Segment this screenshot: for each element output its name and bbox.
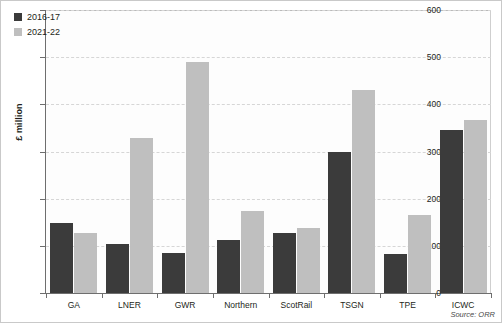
x-axis-label: GA bbox=[46, 300, 102, 310]
legend-item[interactable]: 2016-17 bbox=[14, 12, 60, 22]
x-axis-labels: GALNERGWRNorthernScotRailTSGNTPEICWC bbox=[46, 300, 491, 310]
chart-figure: £ million 0100200300400500600 GALNERGWRN… bbox=[0, 0, 502, 323]
bar bbox=[217, 240, 240, 293]
y-tick bbox=[40, 57, 45, 58]
bar-group bbox=[213, 10, 269, 293]
bar bbox=[186, 62, 209, 293]
x-tick bbox=[324, 293, 325, 298]
legend-swatch-icon bbox=[14, 13, 22, 21]
x-axis-label: Northern bbox=[213, 300, 269, 310]
bar bbox=[297, 228, 320, 293]
y-tick bbox=[40, 104, 45, 105]
bar bbox=[352, 90, 375, 293]
bar bbox=[106, 244, 129, 293]
legend-label: 2016-17 bbox=[27, 12, 60, 22]
bar bbox=[408, 215, 431, 293]
bar bbox=[241, 211, 264, 293]
bar bbox=[162, 253, 185, 293]
bar-group bbox=[435, 10, 491, 293]
y-tick bbox=[40, 293, 45, 294]
bar-group bbox=[102, 10, 158, 293]
y-tick bbox=[40, 199, 45, 200]
bar bbox=[328, 152, 351, 293]
source-note: Source: ORR bbox=[450, 310, 495, 319]
x-tick bbox=[491, 293, 492, 298]
x-tick bbox=[102, 293, 103, 298]
x-tick bbox=[269, 293, 270, 298]
x-axis-ticks bbox=[46, 293, 491, 298]
bar bbox=[130, 138, 153, 293]
bar-group bbox=[324, 10, 380, 293]
y-tick bbox=[40, 152, 45, 153]
x-tick bbox=[435, 293, 436, 298]
x-tick bbox=[46, 293, 47, 298]
legend-item[interactable]: 2021-22 bbox=[14, 27, 60, 37]
bar-group bbox=[157, 10, 213, 293]
legend: 2016-172021-22 bbox=[14, 12, 60, 42]
x-axis-label: TPE bbox=[380, 300, 436, 310]
bar-group bbox=[269, 10, 325, 293]
y-axis-label: £ million bbox=[14, 82, 24, 162]
bar bbox=[50, 223, 73, 293]
x-tick bbox=[380, 293, 381, 298]
x-axis-label: ScotRail bbox=[269, 300, 325, 310]
bar-groups bbox=[46, 10, 491, 293]
bar bbox=[440, 130, 463, 293]
x-axis-label: LNER bbox=[102, 300, 158, 310]
bar bbox=[273, 233, 296, 293]
x-axis-label: ICWC bbox=[435, 300, 491, 310]
plot-area: 0100200300400500600 GALNERGWRNorthernSco… bbox=[45, 10, 491, 293]
x-tick bbox=[213, 293, 214, 298]
legend-swatch-icon bbox=[14, 28, 22, 36]
legend-label: 2021-22 bbox=[27, 27, 60, 37]
bar-group bbox=[46, 10, 102, 293]
bar-group bbox=[380, 10, 436, 293]
bar bbox=[74, 233, 97, 293]
x-axis-label: TSGN bbox=[324, 300, 380, 310]
y-tick bbox=[40, 246, 45, 247]
x-tick bbox=[157, 293, 158, 298]
bar bbox=[384, 254, 407, 293]
bar bbox=[464, 120, 487, 293]
y-tick bbox=[40, 10, 45, 11]
x-axis-label: GWR bbox=[157, 300, 213, 310]
